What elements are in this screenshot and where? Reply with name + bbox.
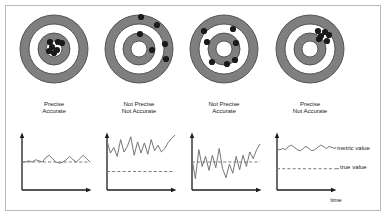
chart-2-y-axis-arrow	[105, 133, 109, 139]
targets-layer	[20, 14, 344, 83]
target-3-dot-7	[224, 61, 230, 67]
target-caption-2-line1: Not Precise	[124, 100, 155, 107]
chart-2-x-axis-arrow	[171, 188, 177, 192]
target-3-dot-4	[233, 40, 239, 46]
target-caption-4-line2: Not Accurate	[293, 107, 327, 114]
target-1	[20, 15, 88, 83]
chart-3-y-axis-arrow	[190, 133, 194, 139]
target-4	[276, 15, 344, 83]
chart-3-series-1	[192, 144, 260, 179]
target-3-dot-3	[201, 28, 207, 34]
target-2-dot-5	[149, 47, 155, 53]
target-4-dot-5	[316, 36, 322, 42]
target-caption-3-line2: Accurate	[212, 107, 236, 114]
target-caption-4: PreciseNot Accurate	[270, 100, 350, 115]
charts-layer	[20, 133, 339, 193]
target-2-dot-6	[163, 56, 169, 62]
legend-true-value-label: true value	[340, 163, 367, 170]
target-caption-1-line1: Precise	[44, 100, 64, 107]
x-axis-time-label: time	[323, 196, 349, 203]
target-caption-2-line2: Not Accurate	[122, 107, 156, 114]
target-caption-4-line1: Precise	[300, 100, 320, 107]
target-2-dot-3	[137, 31, 143, 37]
chart-4-x-axis-arrow	[331, 188, 337, 192]
chart-4-y-axis-arrow	[275, 133, 279, 139]
target-3-dot-1	[204, 39, 210, 45]
target-1-dot-7	[49, 44, 55, 50]
target-3	[190, 15, 258, 83]
target-2-dot-1	[138, 14, 144, 20]
target-2-dot-2	[154, 22, 160, 28]
target-2-bullseye	[131, 41, 147, 57]
target-4-dot-4	[326, 32, 332, 38]
chart-4-series-1	[277, 145, 335, 151]
accuracy-precision-figure: PreciseAccurate Not PreciseNot Accurate …	[0, 0, 388, 218]
chart-1-y-axis-arrow	[20, 133, 24, 139]
target-3-dot-2	[230, 26, 236, 32]
target-4-dot-6	[324, 38, 330, 44]
chart-1-x-axis-arrow	[86, 188, 92, 192]
chart-1	[20, 133, 92, 193]
legend-metric-value-label: metric value	[337, 144, 370, 151]
target-2-dot-4	[162, 41, 168, 47]
target-2	[105, 14, 173, 83]
target-caption-3-line1: Not Precise	[209, 100, 240, 107]
legend-metric-leader	[335, 147, 336, 149]
target-caption-3: Not PreciseAccurate	[184, 100, 264, 115]
chart-3-x-axis-arrow	[256, 188, 262, 192]
target-3-dot-5	[232, 57, 238, 63]
chart-2	[105, 133, 177, 193]
target-4-bullseye	[302, 41, 318, 57]
target-caption-2: Not PreciseNot Accurate	[99, 100, 179, 115]
target-3-dot-6	[209, 59, 215, 65]
target-caption-1-line2: Accurate	[42, 107, 66, 114]
target-3-bullseye	[216, 41, 232, 57]
target-caption-1: PreciseAccurate	[14, 100, 94, 115]
chart-2-series-1	[107, 135, 175, 156]
chart-4	[275, 133, 337, 193]
chart-3	[190, 133, 262, 193]
target-1-dot-3	[59, 40, 65, 46]
